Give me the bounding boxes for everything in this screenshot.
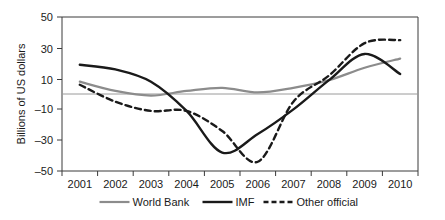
chart-figure: 50 30 10 –10 –30 –50 Billions of US doll… (0, 0, 445, 220)
x-axis-ticks (62, 171, 418, 176)
y-axis-tick-labels: 50 30 10 –10 –30 –50 (35, 11, 53, 177)
x-tick-label: 2001 (68, 178, 92, 190)
y-axis-title: Billions of US dollars (15, 43, 27, 144)
legend-label-world-bank: World Bank (133, 196, 190, 208)
x-tick-label: 2002 (103, 178, 127, 190)
y-tick-label: –10 (35, 103, 53, 115)
legend-label-imf: IMF (236, 196, 255, 208)
x-tick-label: 2004 (174, 178, 198, 190)
chart-legend: World BankIMFOther official (100, 196, 359, 208)
x-tick-label: 2006 (246, 178, 270, 190)
legend-label-other-official: Other official (297, 196, 359, 208)
y-tick-label: 10 (41, 74, 53, 86)
x-axis-tick-labels: 2001200220032004200520062007200820092010 (68, 178, 413, 190)
y-tick-label: –30 (35, 134, 53, 146)
y-tick-label: 50 (41, 11, 53, 23)
y-axis-ticks (57, 17, 62, 171)
x-tick-label: 2007 (281, 178, 305, 190)
x-tick-label: 2008 (317, 178, 341, 190)
x-tick-label: 2010 (388, 178, 412, 190)
x-tick-label: 2009 (352, 178, 376, 190)
line-chart: 50 30 10 –10 –30 –50 Billions of US doll… (0, 0, 445, 220)
x-tick-label: 2003 (139, 178, 163, 190)
y-tick-label: –50 (35, 165, 53, 177)
y-tick-label: 30 (41, 43, 53, 55)
x-tick-label: 2005 (210, 178, 234, 190)
